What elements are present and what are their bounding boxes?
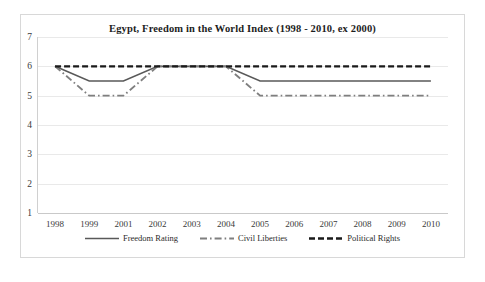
x-tick-2002: 2002 — [149, 219, 167, 229]
series-lines — [38, 37, 448, 213]
chart-title: Egypt, Freedom in the World Index (1998 … — [21, 23, 464, 34]
x-tick-2003: 2003 — [183, 219, 201, 229]
x-tick-2007: 2007 — [319, 219, 337, 229]
legend-swatch-solid-icon — [85, 234, 119, 243]
x-tick-2001: 2001 — [114, 219, 132, 229]
legend-swatch-dashed-icon — [309, 234, 343, 243]
legend-item-political-rights[interactable]: Political Rights — [309, 233, 400, 243]
y-tick-6: 6 — [27, 61, 32, 71]
y-tick-5: 5 — [27, 91, 32, 101]
y-tick-3: 3 — [27, 149, 32, 159]
legend-swatch-dash-dot-icon — [200, 234, 234, 243]
series-line-freedom-rating — [55, 66, 431, 81]
x-tick-2008: 2008 — [354, 219, 372, 229]
x-tick-2009: 2009 — [388, 219, 406, 229]
x-tick-2005: 2005 — [251, 219, 269, 229]
y-tick-4: 4 — [27, 120, 32, 130]
legend-item-civil-liberties[interactable]: Civil Liberties — [200, 233, 287, 243]
legend-label: Civil Liberties — [238, 233, 287, 243]
x-tick-2006: 2006 — [285, 219, 303, 229]
chart-figure: Egypt, Freedom in the World Index (1998 … — [20, 14, 465, 258]
y-tick-2: 2 — [27, 179, 32, 189]
legend-label: Freedom Rating — [123, 233, 178, 243]
x-tick-2010: 2010 — [422, 219, 440, 229]
y-tick-7: 7 — [27, 32, 32, 42]
y-tick-1: 1 — [27, 208, 32, 218]
chart-legend: Freedom RatingCivil LibertiesPolitical R… — [21, 233, 464, 243]
gridline-1 — [38, 213, 448, 214]
x-tick-2004: 2004 — [217, 219, 235, 229]
legend-item-freedom-rating[interactable]: Freedom Rating — [85, 233, 178, 243]
x-tick-1999: 1999 — [80, 219, 98, 229]
plot-area: 1234567 19981999200120022003200420052006… — [38, 37, 448, 213]
x-tick-1998: 1998 — [46, 219, 64, 229]
legend-label: Political Rights — [347, 233, 400, 243]
